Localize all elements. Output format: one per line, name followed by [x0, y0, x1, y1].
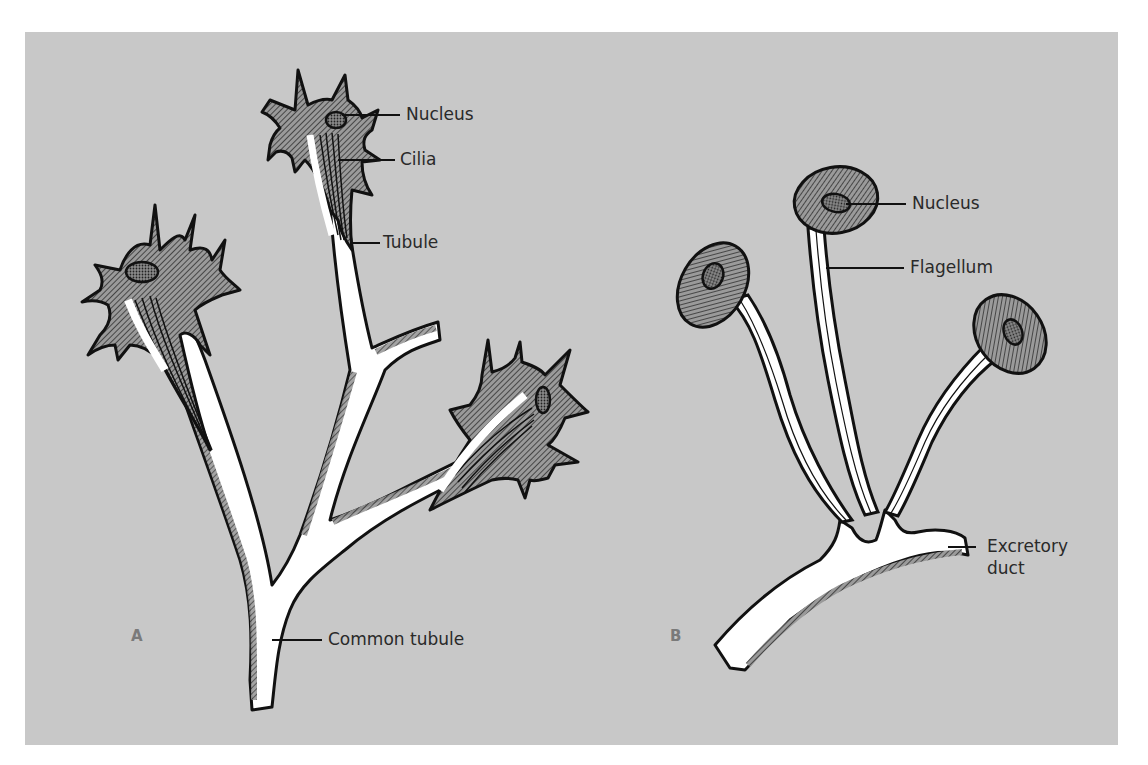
label-b-nucleus: Nucleus	[912, 193, 980, 213]
label-b-flagellum: Flagellum	[910, 257, 993, 277]
label-a-tubule: Tubule	[383, 232, 438, 252]
label-a-nucleus: Nucleus	[406, 104, 474, 124]
label-b-duct: duct	[987, 558, 1025, 578]
panel-a-drawing	[82, 70, 588, 710]
label-b-excretory: Excretory	[987, 536, 1068, 556]
label-a-cilia: Cilia	[400, 149, 436, 169]
panel-letter-b: B	[670, 627, 681, 645]
label-a-common-tubule: Common tubule	[328, 629, 464, 649]
flame-cell-right	[430, 340, 588, 510]
diagram-artwork	[0, 0, 1148, 765]
solenocyte-head-middle	[789, 160, 883, 240]
panel-b-drawing	[663, 160, 1061, 670]
panel-letter-a: A	[131, 627, 143, 645]
